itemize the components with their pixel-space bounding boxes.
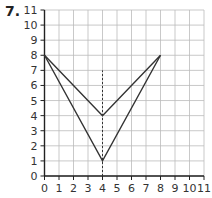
x-tick-label: 9	[172, 182, 179, 195]
x-tick-label: 3	[85, 182, 92, 195]
y-tick-label: 6	[31, 79, 38, 92]
x-tick-label: 1	[56, 182, 63, 195]
y-tick-label: 2	[31, 140, 38, 153]
y-tick-label: 9	[31, 34, 38, 47]
x-tick-label: 11	[197, 182, 211, 195]
y-tick-label: 0	[31, 170, 38, 183]
x-tick-label: 5	[114, 182, 121, 195]
y-tick-label: 7	[31, 64, 38, 77]
x-tick-label: 4	[99, 182, 106, 195]
y-tick-label: 5	[31, 95, 38, 108]
y-tick-label: 3	[31, 125, 38, 138]
coordinate-grid: 0123456789101101234567891011	[0, 0, 212, 198]
x-tick-label: 6	[128, 182, 135, 195]
x-tick-label: 7	[143, 182, 150, 195]
y-tick-label: 11	[24, 4, 38, 17]
x-tick-label: 8	[157, 182, 164, 195]
y-tick-label: 4	[31, 110, 38, 123]
x-tick-label: 0	[41, 182, 48, 195]
y-tick-label: 8	[31, 49, 38, 62]
x-tick-label: 2	[70, 182, 77, 195]
y-tick-label: 10	[24, 19, 38, 32]
y-tick-label: 1	[31, 155, 38, 168]
x-tick-label: 10	[183, 182, 197, 195]
